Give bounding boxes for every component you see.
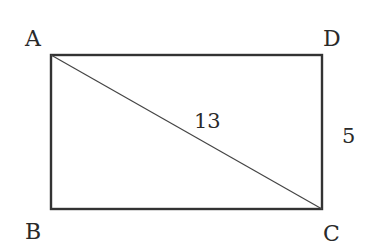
vertex-label-c: C [323,221,340,246]
vertex-label-d: D [323,26,341,51]
vertex-label-b: B [25,219,41,244]
diagonal-length-label: 13 [194,109,221,133]
rectangle-diagram: A D B C 13 5 [0,0,376,252]
side-length-label: 5 [342,124,355,148]
diagonal-ac [51,55,322,209]
vertex-label-a: A [24,26,42,51]
